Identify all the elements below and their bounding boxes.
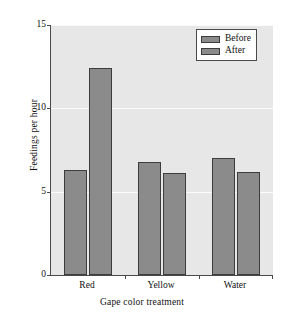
legend-label-before: Before: [225, 34, 251, 44]
bar-yellow-after: [163, 173, 186, 275]
gridline-15: [51, 25, 273, 26]
x-tickmark-2: [199, 275, 200, 279]
y-tick-label-15: 15: [26, 20, 46, 30]
gridline-10: [51, 108, 273, 109]
legend-swatch-before-icon: [201, 36, 220, 43]
x-axis-title: Gape color treatment: [0, 297, 284, 307]
x-tick-label-water: Water: [195, 280, 275, 290]
bar-water-before: [212, 158, 235, 275]
x-tickmark-1: [125, 275, 126, 279]
x-tickmark-end: [272, 275, 273, 279]
legend-label-after: After: [225, 46, 245, 56]
y-tick-label-5: 5: [26, 187, 46, 197]
chart-legend: Before After: [196, 29, 257, 61]
x-tick-label-yellow: Yellow: [121, 280, 201, 290]
legend-item-after: After: [201, 45, 251, 57]
y-tickmark-15: [47, 25, 51, 26]
y-tick-label-0: 0: [26, 270, 46, 280]
y-tickmark-0: [47, 275, 51, 276]
plot-area: [50, 25, 273, 276]
bar-red-before: [64, 170, 87, 275]
bar-chart-figure: Feedings per hour 15 10 5 0 RedYellowWat…: [0, 0, 284, 319]
x-tick-label-red: Red: [47, 280, 127, 290]
legend-item-before: Before: [201, 33, 251, 45]
y-tickmark-5: [47, 192, 51, 193]
y-tickmark-10: [47, 108, 51, 109]
bar-yellow-before: [138, 162, 161, 275]
y-axis-tick-labels: 15 10 5 0: [24, 0, 46, 319]
legend-swatch-after-icon: [201, 48, 220, 55]
bar-water-after: [237, 172, 260, 275]
bar-red-after: [89, 68, 112, 275]
y-tick-label-10: 10: [26, 103, 46, 113]
